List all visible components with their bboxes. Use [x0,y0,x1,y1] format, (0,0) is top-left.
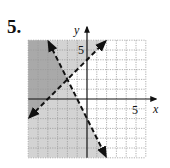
inequality-graph: y x 5 5 [0,0,170,168]
x-tick-5: 5 [132,103,138,117]
y-tick-5: 5 [78,43,84,57]
y-axis-label: y [73,23,80,37]
x-axis-label: x [152,102,159,116]
